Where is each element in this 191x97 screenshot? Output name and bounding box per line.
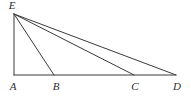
- figure-canvas: E A B C D: [0, 0, 191, 97]
- vertex-label-b: B: [53, 80, 60, 92]
- geometry-figure: E A B C D: [0, 0, 191, 97]
- segment-ec: [14, 14, 134, 75]
- segment-eb: [14, 14, 54, 75]
- vertex-label-d: D: [172, 80, 181, 92]
- vertex-label-e: E: [8, 0, 16, 11]
- vertex-label-a: A: [9, 80, 17, 92]
- vertex-label-c: C: [131, 80, 139, 92]
- segment-ed: [14, 14, 176, 75]
